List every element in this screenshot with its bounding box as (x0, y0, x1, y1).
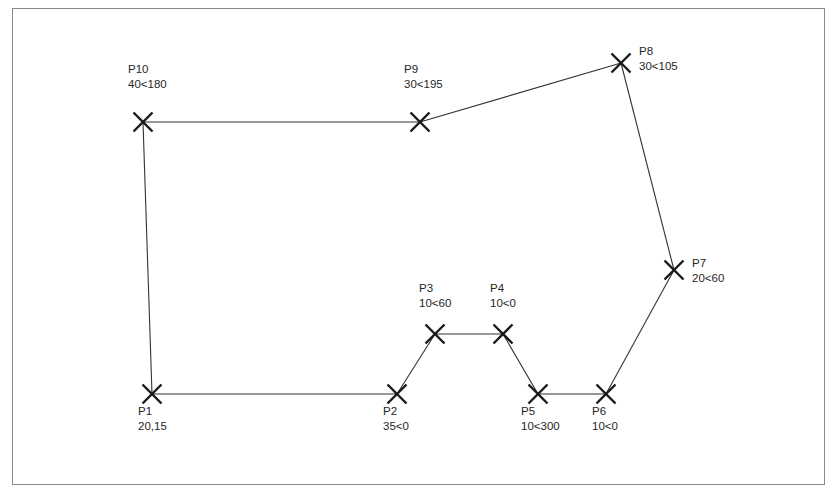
point-value-p4: 10<0 (490, 296, 516, 311)
point-name-p10: P10 (128, 62, 167, 77)
point-value-p1: 20,15 (138, 419, 167, 434)
point-value-p6: 10<0 (592, 419, 618, 434)
point-name-p6: P6 (592, 404, 618, 419)
point-label-p4: P410<0 (490, 281, 516, 311)
point-label-p1: P120,15 (138, 404, 167, 434)
point-marker-group (134, 54, 684, 404)
polygon-edge-p8-p9 (420, 63, 621, 122)
point-label-p5: P510<300 (521, 404, 560, 434)
point-label-p2: P235<0 (383, 404, 409, 434)
point-name-p8: P8 (639, 44, 678, 59)
point-value-p2: 35<0 (383, 419, 409, 434)
point-label-p9: P930<195 (404, 62, 443, 92)
x-cross-marker-p7[interactable] (665, 261, 684, 280)
point-name-p3: P3 (419, 281, 451, 296)
point-value-p5: 10<300 (521, 419, 560, 434)
point-value-p8: 30<105 (639, 59, 678, 74)
point-name-p1: P1 (138, 404, 167, 419)
point-name-p4: P4 (490, 281, 516, 296)
point-value-p9: 30<195 (404, 77, 443, 92)
point-label-p7: P720<60 (692, 256, 724, 286)
point-name-p2: P2 (383, 404, 409, 419)
polygon-edge-p7-p8 (621, 63, 674, 270)
polygon-edge-p6-p7 (606, 270, 674, 394)
point-name-p7: P7 (692, 256, 724, 271)
diagram-canvas: P120,15P235<0P310<60P410<0P510<300P610<0… (0, 0, 837, 499)
point-label-p3: P310<60 (419, 281, 451, 311)
polygon-edge-p10-p1 (143, 122, 152, 394)
polygon-edge-group (143, 63, 674, 394)
point-label-p6: P610<0 (592, 404, 618, 434)
point-label-p10: P1040<180 (128, 62, 167, 92)
polygon-edge-p4-p5 (503, 334, 538, 394)
polygon-edge-p2-p3 (397, 334, 435, 394)
point-label-p8: P830<105 (639, 44, 678, 74)
point-name-p5: P5 (521, 404, 560, 419)
point-value-p7: 20<60 (692, 271, 724, 286)
point-value-p10: 40<180 (128, 77, 167, 92)
point-name-p9: P9 (404, 62, 443, 77)
point-value-p3: 10<60 (419, 296, 451, 311)
x-cross-marker-p8[interactable] (612, 54, 631, 73)
